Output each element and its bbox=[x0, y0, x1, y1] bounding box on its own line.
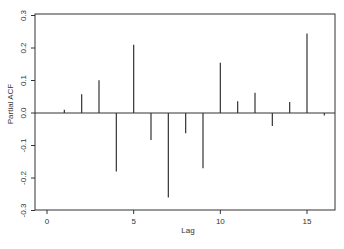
y-tick-label: -0.1 bbox=[19, 138, 28, 152]
y-tick-label: 0.0 bbox=[19, 107, 28, 119]
x-axis-title: Lag bbox=[181, 226, 194, 235]
y-tick-label: -0.3 bbox=[19, 203, 28, 217]
y-tick-label: 0.3 bbox=[19, 9, 28, 21]
x-tick-label: 10 bbox=[216, 217, 225, 226]
y-axis-title: Partial ACF bbox=[6, 84, 15, 125]
x-tick-label: 5 bbox=[131, 217, 136, 226]
y-tick-label: -0.2 bbox=[19, 171, 28, 185]
pacf-chart: -0.3-0.2-0.10.00.10.20.3 051015 Lag Part… bbox=[0, 0, 344, 249]
pacf-spikes bbox=[64, 33, 324, 197]
x-axis: 051015 bbox=[45, 210, 312, 226]
y-tick-label: 0.2 bbox=[19, 42, 28, 54]
y-tick-label: 0.1 bbox=[19, 74, 28, 86]
x-tick-label: 15 bbox=[303, 217, 312, 226]
x-tick-label: 0 bbox=[45, 217, 50, 226]
y-axis: -0.3-0.2-0.10.00.10.20.3 bbox=[19, 9, 35, 217]
